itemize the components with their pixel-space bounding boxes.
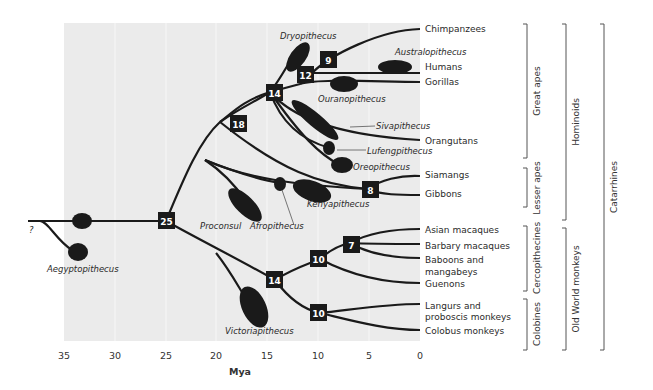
blob-ouranopithecus [330,76,358,92]
taxon-asian-macaques: Asian macaques [425,225,499,235]
taxon-barbary-macaques: Barbary macaques [425,241,510,251]
root-unknown-label: ? [29,225,34,235]
svg-text:25: 25 [160,217,173,227]
fossil-afropithecus: Afropithecus [249,221,304,231]
x-axis: 35 30 25 20 15 10 5 0 Mya [58,350,423,377]
blob-early-catarrhine [72,213,92,229]
node-10-cerco: 10 [310,250,327,267]
bracket-catarrhines [600,24,604,350]
node-8: 8 [362,181,379,198]
bracket-hominoids [562,24,566,220]
bracket-great-apes [523,24,527,158]
node-14-owm: 14 [266,271,283,288]
svg-text:0: 0 [417,350,423,361]
living-taxa-labels: Chimpanzees Humans Gorillas Orangutans S… [425,24,511,336]
blob-oreopithecus [331,157,353,173]
taxon-baboons-1: Baboons and [425,255,484,265]
node-12: 12 [297,66,314,83]
svg-text:10: 10 [312,309,325,319]
group-cercopithecines: Cercopithecines [532,222,542,294]
blob-lufengpithecus [323,141,335,155]
taxon-chimpanzees: Chimpanzees [425,24,486,34]
node-7: 7 [343,236,360,253]
fossil-kenyapithecus: Kenyapithecus [307,199,370,209]
group-old-world-monkeys: Old World monkeys [571,245,581,333]
bracket-old-world-monkeys [562,228,566,350]
node-18: 18 [230,115,247,132]
svg-text:20: 20 [210,350,222,361]
svg-text:12: 12 [299,71,312,81]
bracket-cercopithecines [523,226,527,291]
group-hominoids: Hominoids [571,98,581,146]
svg-text:35: 35 [58,350,70,361]
node-9: 9 [320,51,337,68]
node-14-hominoid: 14 [266,84,283,101]
node-25: 25 [158,212,175,229]
fossil-victoriapithecus: Victoriapithecus [225,326,294,336]
svg-text:30: 30 [109,350,121,361]
taxon-humans: Humans [425,62,462,72]
group-colobines: Colobines [532,302,542,346]
svg-text:14: 14 [268,276,281,286]
taxon-baboons-2: mangabeys [425,267,478,277]
fossil-australopithecus: Australopithecus [394,47,467,57]
taxon-orangutans: Orangutans [425,136,478,146]
taxon-gibbons: Gibbons [425,189,462,199]
svg-text:10: 10 [312,350,324,361]
group-catarrhines: Catarrhines [609,161,619,213]
svg-text:10: 10 [312,255,325,265]
fossil-aegyptopithecus: Aegyptopithecus [46,264,119,274]
fossil-dryopithecus: Dryopithecus [280,31,337,41]
bracket-lesser-apes [523,168,527,207]
taxon-gorillas: Gorillas [425,77,459,87]
taxon-colobus: Colobus monkeys [425,326,504,336]
group-lesser-apes: Lesser apes [532,161,542,215]
phylogeny-diagram: 25 18 14 12 9 8 14 10 7 10 Chimpanzees H… [0,0,653,390]
group-great-apes: Great apes [532,66,542,116]
blob-aegyptopithecus [68,243,88,261]
fossil-lufengpithecus: Lufengpithecus [367,146,433,156]
taxon-siamangs: Siamangs [425,170,469,180]
blob-australopithecus [378,60,412,74]
bracket-colobines [523,299,527,350]
taxon-langurs-1: Langurs and [425,301,481,311]
fossil-oreopithecus: Oreopithecus [353,162,410,172]
svg-text:14: 14 [268,89,281,99]
svg-text:9: 9 [325,56,331,66]
fossil-ouranopithecus: Ouranopithecus [318,94,386,104]
svg-text:5: 5 [366,350,372,361]
taxon-guenons: Guenons [425,279,465,289]
svg-text:18: 18 [232,120,245,130]
svg-text:15: 15 [261,350,273,361]
svg-text:25: 25 [160,350,172,361]
fossil-sivapithecus: Sivapithecus [376,121,431,131]
svg-text:8: 8 [367,186,373,196]
node-10-colob: 10 [310,304,327,321]
blob-afropithecus [274,177,286,191]
taxon-langurs-2: proboscis monkeys [425,312,511,322]
group-labels: Great apes Lesser apes Cercopithecines C… [532,66,619,346]
fossil-proconsul: Proconsul [200,221,242,231]
svg-text:7: 7 [348,241,354,251]
x-axis-label: Mya [229,366,251,377]
